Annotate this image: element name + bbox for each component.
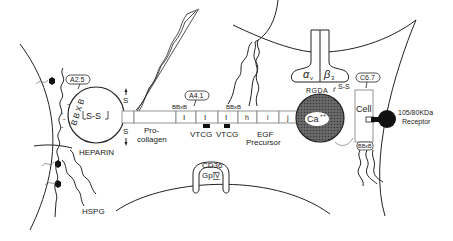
balloon-a2-5: A2.5: [66, 75, 90, 89]
receptor-label-2: Receptor: [402, 118, 431, 126]
egf-precursor-label: Precursor: [246, 138, 281, 147]
bbxb-motif-2: BBxB: [226, 104, 241, 110]
svg-text:A4.1: A4.1: [189, 92, 204, 99]
type1-repeat-3: I: [225, 113, 227, 122]
vtcg-markers: [203, 124, 230, 128]
integrin-alpha-v-beta-3: α v β 3: [291, 30, 348, 82]
bbxb-motif-1: BBxB: [172, 104, 187, 110]
top-cell-membrane: [228, 0, 312, 106]
s-bottom: S: [123, 127, 128, 136]
calcium-disulfide: S-S: [338, 83, 350, 90]
type1-repeat-1: I: [183, 113, 185, 122]
s-top: S: [123, 96, 128, 105]
cell-binding-domain: Cell BBxB: [355, 90, 383, 186]
egf-segment-j: j: [286, 114, 289, 122]
gp-iv-numeral: IV: [213, 172, 220, 179]
balloon-c6-7: C6.7: [356, 73, 380, 88]
procollagen-label-1: Pro-: [144, 126, 159, 135]
cd36-gpiv: CD36 Gp IV: [193, 161, 229, 193]
heparin-label: HEPARIN: [79, 148, 114, 157]
heparin-domain: S-S BBXB - - - - HEPARIN HSPG: [61, 87, 124, 216]
vtcg-label-2: VTCG: [216, 130, 238, 139]
calcium-binding-domain: Ca ++ RGDA S-S: [296, 83, 353, 145]
heparin-disulfide-label: S-S: [86, 111, 101, 121]
cd36-label: CD36: [202, 161, 223, 170]
calcium-label: Ca: [307, 114, 319, 124]
alpha-label: α: [303, 68, 310, 80]
svg-text:A2.5: A2.5: [70, 76, 85, 83]
svg-text:++: ++: [320, 112, 326, 118]
gp-label: Gp: [202, 171, 213, 180]
thrombospondin-diagram: S-S BBXB - - - - HEPARIN HSPG A2.5 S S: [0, 0, 453, 241]
protein-strand: [122, 111, 298, 123]
rgda-motif: RGDA: [306, 87, 328, 94]
balloon-a4-1: A4.1: [185, 91, 209, 106]
bbxb-motif-cell: BBxB: [358, 143, 372, 149]
procollagen-label-2: collagen: [137, 135, 167, 144]
charge-3: -: [63, 115, 66, 122]
hspg-label: HSPG: [82, 207, 105, 216]
charge-4: -: [61, 123, 64, 130]
vtcg-label-1: VTCG: [190, 130, 212, 139]
svg-text:v: v: [310, 75, 313, 81]
cell-label: Cell: [356, 104, 372, 114]
receptor-label-1: 105/80KDa: [398, 109, 433, 116]
svg-text:C6.7: C6.7: [360, 74, 375, 81]
receptor-105-80kda: 105/80KDa Receptor: [371, 109, 433, 128]
type1-repeat-2: I: [204, 113, 206, 122]
left-cell-membrane: [20, 44, 72, 230]
egf-segment-h: h: [245, 114, 249, 121]
beta-label: β: [323, 68, 331, 80]
